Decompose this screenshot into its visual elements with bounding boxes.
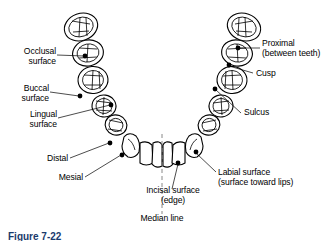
label-proximal-line2: (between teeth): [262, 48, 334, 58]
dot-buccal: [78, 94, 83, 99]
leader-distal: [70, 143, 109, 158]
tooth-left-first-molar: [77, 65, 109, 95]
figure-container: Occlusal surface Buccal surface Lingual …: [0, 0, 334, 241]
leader-labial: [196, 153, 216, 172]
label-lingual-line2: surface: [0, 119, 57, 129]
label-buccal-line1: Buccal: [0, 83, 49, 93]
label-proximal-line1: Proximal: [262, 38, 334, 48]
label-lingual-surface: Lingual surface: [0, 109, 57, 129]
label-occlusal-surface: Occlusal surface: [0, 46, 56, 66]
label-occlusal-line1: Occlusal: [0, 46, 56, 56]
label-labial-line2: (surface toward lips): [218, 177, 334, 187]
label-sulcus: Sulcus: [244, 107, 304, 117]
label-labial-surface: Labial surface (surface toward lips): [218, 167, 334, 187]
dot-mesial: [120, 153, 125, 158]
dot-proximal: [236, 46, 241, 51]
tooth-left-third-molar: [60, 8, 101, 45]
tooth-left-second-molar: [70, 37, 106, 69]
label-distal: Distal: [0, 153, 68, 163]
label-labial-line1: Labial surface: [218, 167, 334, 177]
label-incisal-line1: Incisal surface: [137, 185, 209, 195]
label-lingual-line1: Lingual: [0, 109, 57, 119]
label-incisal-line2: (edge): [137, 195, 209, 205]
label-mesial: Mesial: [0, 172, 83, 182]
dot-incisal: [176, 161, 181, 166]
tooth-right-second-molar: [219, 37, 255, 69]
label-incisal-surface: Incisal surface (edge): [137, 185, 209, 205]
tooth-left-canine: [122, 134, 140, 158]
dot-labial: [194, 150, 199, 155]
label-median-line: Median line: [108, 213, 216, 223]
dot-distal: [108, 141, 113, 146]
tooth-right-first-molar: [216, 65, 248, 95]
label-occlusal-line2: surface: [0, 56, 56, 66]
dot-cusp: [227, 63, 232, 68]
dot-occlusal: [83, 54, 88, 59]
label-cusp: Cusp: [256, 68, 306, 78]
leader-buccal: [50, 92, 79, 96]
tooth-right-canine: [185, 134, 203, 158]
figure-caption: Figure 7-22: [8, 231, 61, 241]
tooth-left-lateral-incisor: [140, 142, 153, 165]
tooth-right-third-molar: [223, 8, 264, 45]
leader-mesial: [85, 155, 121, 177]
dot-sulcus: [213, 87, 218, 92]
tooth-left-central-incisor: [152, 142, 162, 167]
label-buccal-line2: surface: [0, 93, 49, 103]
label-buccal-surface: Buccal surface: [0, 83, 49, 103]
label-proximal: Proximal (between teeth): [262, 38, 334, 58]
dot-lingual: [109, 103, 114, 108]
